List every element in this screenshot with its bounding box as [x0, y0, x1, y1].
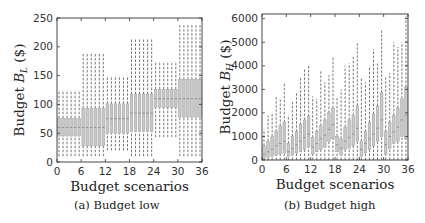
box-scenario-26 [364, 82, 367, 160]
box-scenario-1 [263, 129, 266, 160]
box-scenario-5 [74, 90, 77, 156]
box-scenario-33 [187, 24, 190, 156]
caption-budget-high: (b) Budget high [284, 198, 376, 212]
y-tick-label: 50 [40, 127, 53, 139]
box [267, 141, 270, 157]
box [356, 106, 359, 141]
y-tick-label: 200 [33, 40, 53, 52]
box-scenario-6 [283, 82, 286, 160]
box-scenario-23 [352, 56, 355, 160]
box-scenario-34 [191, 24, 194, 156]
y-tick-label: 250 [33, 12, 53, 24]
y-axis-title-suffix: ($) [217, 40, 233, 63]
x-tick-label: 12 [304, 163, 317, 175]
box-scenario-16 [118, 76, 121, 151]
box-scenario-29 [376, 63, 379, 160]
x-tick-label: 0 [54, 165, 61, 177]
x-tick-label: 6 [283, 163, 290, 175]
y-tick-label: 150 [33, 69, 53, 81]
box [352, 115, 355, 146]
box [287, 144, 290, 157]
boxplot-budget-low: 061218243036050100150200250Budget scenar… [0, 0, 212, 223]
box [275, 132, 278, 156]
y-axis-title-suffix: ($) [11, 44, 27, 67]
box [291, 136, 294, 155]
box-scenario-3 [66, 90, 69, 156]
box-scenario-36 [405, 16, 408, 160]
x-tick-label: 36 [401, 163, 415, 175]
y-tick-label: 100 [33, 98, 53, 110]
box [328, 113, 331, 141]
box-scenario-13 [311, 96, 314, 160]
y-axis-title-var: B [217, 71, 233, 81]
panel-budget-low: 061218243036050100150200250Budget scenar… [0, 0, 212, 223]
box-scenario-22 [142, 38, 145, 156]
x-tick-label: 6 [78, 165, 85, 177]
y-axis-title-sub: L [19, 67, 29, 73]
box [340, 139, 343, 155]
y-tick-label: 6000 [231, 12, 258, 24]
box-scenario-22 [348, 63, 351, 160]
box [344, 127, 347, 149]
box [388, 122, 391, 148]
box-scenario-36 [199, 24, 202, 156]
box [271, 136, 274, 156]
box [279, 126, 282, 154]
box-scenario-6 [78, 90, 81, 156]
y-axis-title-var: B [11, 73, 27, 83]
box-scenario-30 [175, 61, 178, 137]
box [332, 108, 335, 139]
box-scenario-20 [340, 89, 343, 160]
y-axis-title-prefix: Budget [11, 83, 27, 137]
box [324, 120, 327, 147]
box [360, 141, 363, 156]
box [380, 93, 383, 137]
x-tick-label: 30 [171, 165, 184, 177]
x-tick-label: 12 [99, 165, 112, 177]
box [311, 138, 314, 154]
x-tick-label: 24 [147, 165, 161, 177]
box-scenario-11 [98, 53, 101, 157]
box [303, 120, 306, 149]
box [263, 146, 266, 158]
box [372, 114, 375, 146]
box [283, 122, 286, 153]
boxes [58, 24, 202, 156]
box-scenario-17 [328, 75, 331, 160]
box-scenario-35 [195, 24, 198, 156]
box [384, 132, 387, 154]
box-scenario-14 [315, 99, 318, 160]
box-scenario-35 [401, 42, 404, 160]
box [320, 126, 323, 150]
y-axis-title: Budget BL ($) [11, 44, 29, 137]
box [315, 132, 318, 152]
box-scenario-3 [271, 113, 274, 160]
box-scenario-26 [158, 61, 161, 137]
box-scenario-15 [114, 76, 117, 151]
box-scenario-25 [154, 61, 157, 137]
boxes [263, 16, 408, 160]
box-scenario-21 [138, 38, 141, 156]
box [364, 132, 367, 153]
box-scenario-12 [102, 53, 105, 157]
y-axis-title-sub: H [225, 63, 235, 71]
box [393, 115, 396, 143]
box-scenario-19 [336, 96, 339, 160]
box-scenario-32 [183, 24, 186, 156]
box-scenario-18 [126, 76, 129, 151]
box-scenario-33 [393, 42, 396, 160]
y-tick-label: 0 [46, 156, 53, 168]
box [397, 108, 400, 141]
box [401, 99, 404, 137]
box-scenario-2 [62, 90, 65, 156]
box-scenario-5 [279, 99, 282, 160]
box-scenario-28 [372, 49, 375, 160]
x-tick-label: 0 [259, 163, 266, 175]
box-scenario-8 [86, 53, 89, 157]
x-tick-label: 24 [353, 163, 367, 175]
y-axis-title-prefix: Budget [217, 81, 233, 135]
box-scenario-12 [307, 66, 310, 160]
box-scenario-20 [134, 38, 137, 156]
box-scenario-28 [166, 61, 169, 137]
box-scenario-27 [368, 66, 371, 160]
